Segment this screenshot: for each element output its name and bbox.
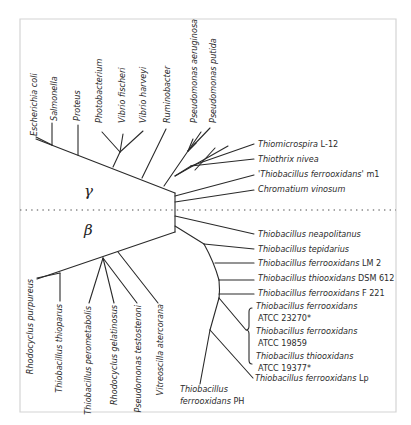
svg-text:Thiobacillus: Thiobacillus: [180, 384, 229, 394]
strain-label: ATCC 19859: [258, 338, 307, 348]
taxon-label: Thiobacillus neapolitanus: [258, 229, 362, 239]
taxon-label: Pseudomonas putida: [208, 38, 218, 123]
taxon-label: Thiobacillus thiooxidans DSM 612: [258, 273, 394, 283]
beta-right-labels: Thiobacillus neapolitanus Thiobacillus t…: [258, 229, 394, 298]
taxon-label: Thiobacillus ferrooxidans: [256, 301, 358, 311]
taxon-label: Vibrio fischeri: [117, 67, 127, 123]
beta-label: β: [83, 221, 93, 239]
taxon-label-ph: Thiobacillus ferrooxidans PH: [180, 384, 244, 406]
gamma-top-labels: Escherichia coli Salmonella Proteus Phot…: [29, 19, 218, 136]
taxon-label-lp: Thiobacillus ferrooxidans Lp: [255, 373, 369, 383]
taxon-label: Vibrio harveyi: [138, 66, 148, 123]
taxon-label: Pseudomonas aeruginosa: [189, 19, 199, 123]
taxon-label: Thiobacillus ferrooxidans: [256, 326, 358, 336]
taxon-label: Thiothrix nivea: [258, 154, 319, 164]
taxon-label: Vitreoscilla atercorana: [155, 304, 165, 395]
gamma-right-labels: Thiomicrospira L-12 Thiothrix nivea 'Thi…: [258, 139, 379, 194]
taxon-label: Proteus: [72, 90, 82, 121]
taxon-label: Photobacterium: [94, 59, 104, 123]
gamma-label: γ: [84, 182, 93, 200]
atcc-bracket-labels: Thiobacillus ferrooxidans ATCC 23270* Th…: [256, 301, 358, 373]
beta-bottom-labels: Rhodocyclus purpureus Thiobacillus thiop…: [25, 278, 165, 414]
tree-branches: [36, 123, 254, 384]
taxon-label: Escherichia coli: [29, 73, 39, 136]
taxon-label: Thiomicrospira L-12: [258, 139, 338, 149]
taxon-label: Rhodocyclus purpureus: [25, 278, 35, 374]
strain-label: ATCC 23270*: [258, 313, 311, 323]
svg-text:ferrooxidans PH: ferrooxidans PH: [180, 396, 244, 406]
strain-label: ATCC 19377*: [258, 363, 311, 373]
taxon-label: Salmonella: [49, 76, 59, 121]
taxon-label: Thiobacillus tepidarius: [258, 244, 350, 254]
taxon-label: Thiobacillus ferrooxidans F 221: [258, 288, 385, 298]
taxon-label: Thiobacillus perometabolis: [83, 305, 93, 414]
taxon-label: Thiobacillus thioparus: [54, 303, 64, 393]
taxon-label: Pseudomonas testosteroni: [133, 304, 143, 412]
taxon-label: Rhodocyclus gelatinosus: [109, 304, 119, 405]
taxon-label: Thiobacillus ferrooxidans LM 2: [258, 258, 381, 268]
taxon-label: 'Thiobacillus ferrooxidans' m1: [258, 169, 379, 179]
taxon-label: Ruminobacter: [162, 65, 172, 123]
taxon-label: Chromatium vinosum: [258, 184, 345, 194]
taxon-label: Thiobacillus thiooxidans: [256, 351, 354, 361]
phylogenetic-tree: γ β: [0, 0, 411, 425]
